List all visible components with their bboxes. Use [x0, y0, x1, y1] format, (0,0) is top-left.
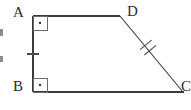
right-angle-marker-a: [33, 16, 47, 30]
clipped-artifact-upper: [0, 29, 3, 36]
vertex-label-d: D: [127, 4, 138, 19]
right-angle-marker-b: [33, 78, 47, 92]
vertex-label-c: C: [181, 79, 191, 94]
clipped-artifact-lower: [0, 56, 3, 62]
edge-dc: [120, 16, 183, 92]
quadrilateral-diagram: [0, 0, 191, 110]
vertex-label-a: A: [13, 5, 24, 20]
geometry-figure-canvas: A B D C: [0, 0, 191, 110]
vertex-label-b: B: [13, 79, 23, 94]
